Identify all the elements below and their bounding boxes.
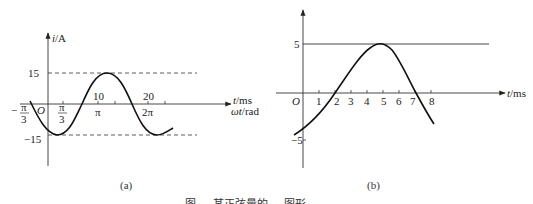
xtick-neg-pi3-num: π <box>21 101 27 113</box>
chart-a: i/A 15 −15 O − π 3 π 3 π 2π 10 20 t/ms ω… <box>11 32 259 192</box>
y-axis-label-a: i/A <box>52 32 66 44</box>
xtick-pi3-num: π <box>59 101 65 113</box>
x-axis-label-b: t/ms <box>507 87 526 99</box>
xtick-2pi: 2π <box>142 106 154 118</box>
xtick-6: 6 <box>396 95 402 107</box>
xtick-neg-pi3-den: 3 <box>21 113 27 125</box>
xtick-pi3-den: 3 <box>59 113 65 125</box>
ytick-5: 5 <box>294 38 300 50</box>
x-tick-labels-b: 1 2 3 4 5 6 7 8 <box>316 95 435 107</box>
chart-b: 5 −5 O 1 2 3 4 5 6 7 8 t/ms (b) <box>276 10 526 192</box>
ytick-neg5: −5 <box>291 134 303 146</box>
xtick-4: 4 <box>364 95 370 107</box>
xtick-pi: π <box>95 106 101 118</box>
figure-canvas: i/A 15 −15 O − π 3 π 3 π 2π 10 20 t/ms ω… <box>0 0 533 204</box>
panel-label-b: (b) <box>367 179 380 192</box>
figure-caption: 图 … 某正弦量的 … 图形 <box>185 197 306 204</box>
origin-label-b: O <box>292 95 300 107</box>
xtick-20: 20 <box>143 90 155 102</box>
ytick-neg15: −15 <box>24 133 42 145</box>
sine-curve-b <box>294 44 434 135</box>
xtick-8: 8 <box>429 95 435 107</box>
xtick-3: 3 <box>348 95 354 107</box>
xtick-2: 2 <box>334 95 340 107</box>
origin-label-a: O <box>37 104 45 116</box>
xtick-10: 10 <box>93 90 105 102</box>
ytick-15: 15 <box>28 67 40 79</box>
xtick-neg-pi3-sign: − <box>11 104 17 116</box>
panel-label-a: (a) <box>120 179 133 192</box>
xtick-1: 1 <box>316 95 322 107</box>
x-axis-label-wt: ωt/rad <box>231 105 259 117</box>
xtick-5: 5 <box>381 95 387 107</box>
xtick-7: 7 <box>410 95 416 107</box>
